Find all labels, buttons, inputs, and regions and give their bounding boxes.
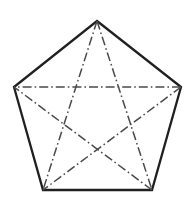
- pentagon-diagram: [0, 0, 194, 207]
- figure-canvas: [0, 0, 194, 207]
